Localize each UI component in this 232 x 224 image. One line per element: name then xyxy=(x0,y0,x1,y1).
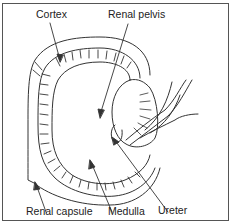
medulla-boundary xyxy=(52,62,150,184)
renal-pelvis-shape xyxy=(112,79,158,146)
label-cortex: Cortex xyxy=(36,9,67,20)
kidney-illustration xyxy=(0,0,232,224)
ureter xyxy=(126,80,186,140)
label-ureter: Ureter xyxy=(158,205,187,216)
label-medulla: Medulla xyxy=(108,206,145,217)
label-renal-capsule: Renal capsule xyxy=(26,206,93,217)
cortex-striations xyxy=(33,50,140,190)
label-renal-pelvis: Renal pelvis xyxy=(108,9,165,20)
